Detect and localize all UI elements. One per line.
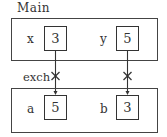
cross-icon: [52, 72, 132, 80]
call-label: exch: [23, 71, 50, 83]
param-label-b: b: [100, 103, 108, 115]
param-cell-b: 3: [116, 95, 139, 120]
param-label-a: a: [27, 103, 34, 115]
param-cell-a: 5: [44, 95, 67, 120]
